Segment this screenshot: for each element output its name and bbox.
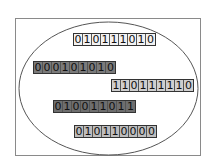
bit-cell: 1	[84, 126, 93, 137]
bit-cell: 0	[70, 62, 79, 73]
bit-cell: 1	[148, 80, 157, 91]
bit-cell: 0	[92, 34, 101, 45]
bit-cell: 0	[75, 126, 84, 137]
bit-cell: 1	[126, 101, 135, 112]
bit-cell: 1	[61, 62, 70, 73]
bit-cell: 0	[93, 126, 102, 137]
bit-cell: 0	[147, 126, 156, 137]
bitstring-box: 110111110	[111, 79, 194, 92]
bit-cell: 1	[157, 80, 166, 91]
bit-cell: 0	[34, 62, 43, 73]
bit-cell: 1	[110, 34, 119, 45]
bit-cell: 1	[99, 101, 108, 112]
bit-cell: 0	[184, 80, 193, 91]
bit-cell: 1	[79, 62, 88, 73]
bit-cell: 1	[102, 126, 111, 137]
bit-cell: 1	[90, 101, 99, 112]
bit-cell: 0	[106, 62, 115, 73]
bitstring-box: 010111010	[73, 33, 156, 46]
bit-cell: 0	[130, 80, 139, 91]
bit-cell: 0	[81, 101, 90, 112]
bit-cell: 0	[52, 62, 61, 73]
bit-cell: 0	[138, 126, 147, 137]
bit-cell: 1	[112, 80, 121, 91]
bit-cell: 1	[166, 80, 175, 91]
bit-cell: 0	[88, 62, 97, 73]
bit-cell: 1	[117, 101, 126, 112]
bit-cell: 0	[72, 101, 81, 112]
bit-cell: 0	[108, 101, 117, 112]
bit-cell: 0	[128, 34, 137, 45]
bit-cell: 1	[121, 80, 130, 91]
bit-cell: 0	[120, 126, 129, 137]
bit-cell: 1	[119, 34, 128, 45]
bitstring-box: 000101010	[33, 61, 116, 74]
bit-cell: 1	[63, 101, 72, 112]
bit-cell: 0	[54, 101, 63, 112]
bit-cell: 0	[146, 34, 155, 45]
bit-cell: 0	[129, 126, 138, 137]
bit-cell: 1	[111, 126, 120, 137]
bit-cell: 1	[101, 34, 110, 45]
bit-cell: 1	[139, 80, 148, 91]
bit-cell: 1	[137, 34, 146, 45]
bit-cell: 0	[74, 34, 83, 45]
bit-cell: 1	[175, 80, 184, 91]
bit-cell: 1	[97, 62, 106, 73]
bit-cell: 0	[43, 62, 52, 73]
bitstring-box: 010011011	[53, 100, 136, 113]
bitstring-box: 010110000	[74, 125, 157, 138]
bit-cell: 1	[83, 34, 92, 45]
